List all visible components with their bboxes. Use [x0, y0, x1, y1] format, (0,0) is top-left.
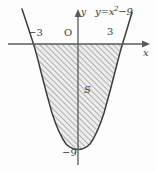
equation-suffix: −9	[118, 6, 132, 17]
x-axis-label: x	[143, 48, 149, 58]
vertex-y-label: −9	[62, 148, 77, 158]
y-axis-label: y	[81, 8, 86, 17]
math-figure-parabola: y=x2−9 −3 3 O −9 S x y	[0, 0, 156, 171]
parabola-plot-canvas	[0, 0, 156, 171]
equation-prefix: y=x	[95, 6, 114, 17]
origin-label: O	[64, 28, 72, 38]
x-intercept-left-label: −3	[28, 28, 43, 38]
x-intercept-right-label: 3	[107, 27, 113, 37]
equation-label: y=x2−9	[95, 7, 133, 17]
region-label-S: S	[84, 85, 91, 95]
